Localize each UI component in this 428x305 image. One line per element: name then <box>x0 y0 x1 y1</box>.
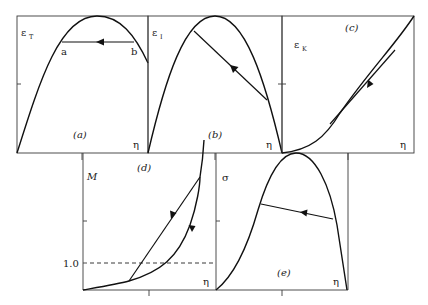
panel-e-xlabel: η <box>333 276 339 287</box>
panel-b-ylabel: ε <box>152 27 157 38</box>
panel-d: M 1.0 (d) η <box>63 140 216 296</box>
panel-b-xlabel: η <box>266 139 272 150</box>
panel-c-frame <box>282 16 414 153</box>
panel-e-chord <box>261 204 333 219</box>
panel-c-tag: (c) <box>345 22 359 33</box>
panel-c: ε K (c) η <box>282 16 414 160</box>
panel-c-chord <box>330 50 395 124</box>
panel-b-tag: (b) <box>208 129 222 140</box>
panel-e: σ (e) η <box>216 153 348 296</box>
panel-c-ylabel-sub: K <box>302 45 307 53</box>
panel-d-ylabel: M <box>86 171 98 182</box>
arrow-left-icon <box>300 210 308 217</box>
panel-d-tag: (d) <box>137 162 151 173</box>
panel-e-tag: (e) <box>277 267 291 278</box>
panel-d-chord <box>129 177 200 281</box>
point-a-label: a <box>61 46 67 57</box>
panel-d-xlabel: η <box>203 276 209 287</box>
arrow-down-left-icon <box>367 80 374 89</box>
arrow-down-icon <box>189 225 196 232</box>
panel-b-ylabel-sub: I <box>160 33 163 41</box>
arrow-left-icon <box>96 39 104 46</box>
panel-a: ε T a b (a) η <box>17 16 148 160</box>
panel-c-xlabel: η <box>400 139 406 150</box>
panel-c-ylabel: ε <box>294 39 299 50</box>
panel-d-reference-label: 1.0 <box>63 258 79 269</box>
point-b-label: b <box>131 46 137 57</box>
panel-a-ylabel-sub: T <box>29 33 34 41</box>
figure-canvas: ε T a b (a) η ε I (b) η ε K (c) η <box>0 0 428 305</box>
panel-a-ylabel: ε <box>21 27 26 38</box>
panel-a-tag: (a) <box>73 129 87 140</box>
panel-e-ylabel: σ <box>222 172 229 183</box>
arrow-down-left-icon <box>170 211 177 220</box>
panel-a-xlabel: η <box>133 139 139 150</box>
panel-b: ε I (b) η <box>148 16 282 160</box>
panel-c-curve <box>282 16 414 153</box>
